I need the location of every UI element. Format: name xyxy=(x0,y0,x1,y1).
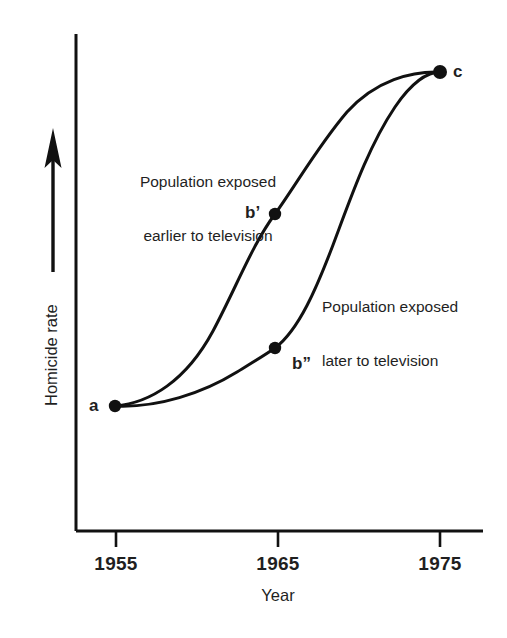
x-axis-title: Year xyxy=(218,586,338,605)
x-tick-label-1975: 1975 xyxy=(390,553,490,575)
data-point-b-double-prime xyxy=(269,342,281,354)
x-tick-label-1965: 1965 xyxy=(228,553,328,575)
data-point-c xyxy=(433,65,447,79)
annotation-later-line-1: Population exposed xyxy=(322,298,497,316)
chart-figure: a b’ b” c Population exposed earlier to … xyxy=(0,0,507,638)
point-label-b-double-prime: b” xyxy=(292,354,311,374)
point-label-a: a xyxy=(89,396,99,416)
annotation-earlier-line-2: earlier to television xyxy=(122,227,294,245)
data-point-a xyxy=(109,400,121,412)
x-tick-label-1955: 1955 xyxy=(66,553,166,575)
annotation-later-exposure: Population exposed later to television xyxy=(322,261,497,407)
y-axis-direction-arrow xyxy=(45,128,62,272)
annotation-earlier-line-1: Population exposed xyxy=(122,173,294,191)
y-axis-title: Homicide rate xyxy=(42,304,61,406)
annotation-later-line-2: later to television xyxy=(322,352,497,370)
annotation-earlier-exposure: Population exposed earlier to television xyxy=(122,136,294,282)
point-label-c: c xyxy=(453,62,463,82)
